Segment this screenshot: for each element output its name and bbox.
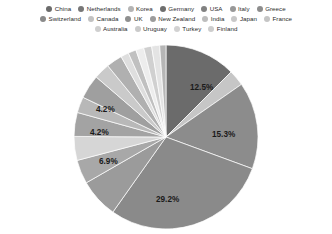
legend-item-france[interactable]: France xyxy=(264,14,292,23)
legend-swatch-icon xyxy=(125,16,131,22)
legend-item-canada[interactable]: Canada xyxy=(88,14,118,23)
legend-swatch-icon xyxy=(160,6,166,12)
legend-item-finland[interactable]: Finland xyxy=(208,24,237,33)
legend-item-label: New Zealand xyxy=(158,14,195,23)
pie-plot-area: 12.5%15.3%29.2%6.9%4.2%4.2% xyxy=(0,40,332,234)
legend-swatch-icon xyxy=(40,16,46,22)
legend-swatch-icon xyxy=(264,16,270,22)
legend-item-india[interactable]: India xyxy=(202,14,224,23)
legend-swatch-icon xyxy=(88,16,94,22)
legend-swatch-icon xyxy=(201,6,207,12)
legend-item-turkey[interactable]: Turkey xyxy=(174,24,201,33)
legend-item-netherlands[interactable]: Netherlands xyxy=(78,4,120,13)
pie-slice-label: 4.2% xyxy=(96,105,115,114)
legend-swatch-icon xyxy=(95,26,101,32)
legend-item-korea[interactable]: Korea xyxy=(128,4,153,13)
legend-item-label: Netherlands xyxy=(87,4,121,13)
legend-item-usa[interactable]: USA xyxy=(201,4,222,13)
pie-slice-label: 4.2% xyxy=(90,128,109,137)
legend-item-label: Turkey xyxy=(182,24,201,33)
legend-item-china[interactable]: China xyxy=(46,4,71,13)
pie-slice-label: 6.9% xyxy=(99,157,118,166)
legend-item-label: Canada xyxy=(97,14,119,23)
legend-item-label: Switzerland xyxy=(48,14,81,23)
legend-swatch-icon xyxy=(78,6,84,12)
pie-slice-label: 15.3% xyxy=(212,130,236,139)
legend-row: AustraliaUruguayTurkeyFinland xyxy=(95,24,238,33)
legend-item-label: Greece xyxy=(265,4,286,13)
legend-item-australia[interactable]: Australia xyxy=(95,24,128,33)
chart-legend: ChinaNetherlandsKoreaGermanyUSAItalyGree… xyxy=(0,4,332,33)
legend-item-germany[interactable]: Germany xyxy=(160,4,194,13)
pie-chart-figure: ChinaNetherlandsKoreaGermanyUSAItalyGree… xyxy=(0,0,332,234)
legend-swatch-icon xyxy=(202,16,208,22)
legend-swatch-icon xyxy=(135,26,141,32)
legend-item-japan[interactable]: Japan xyxy=(231,14,257,23)
legend-swatch-icon xyxy=(46,6,52,12)
legend-item-label: Australia xyxy=(103,24,128,33)
legend-row: SwitzerlandCanadaUKNew ZealandIndiaJapan… xyxy=(40,14,292,23)
legend-item-uruguay[interactable]: Uruguay xyxy=(135,24,167,33)
pie-svg: 12.5%15.3%29.2%6.9%4.2%4.2% xyxy=(66,42,266,232)
legend-item-label: Germany xyxy=(168,4,194,13)
legend-item-label: UK xyxy=(134,14,143,23)
legend-swatch-icon xyxy=(208,26,214,32)
legend-item-label: Uruguay xyxy=(143,24,167,33)
legend-item-label: USA xyxy=(210,4,223,13)
legend-item-label: France xyxy=(272,14,292,23)
legend-item-label: India xyxy=(211,14,225,23)
legend-row: ChinaNetherlandsKoreaGermanyUSAItalyGree… xyxy=(46,4,285,13)
legend-item-switzerland[interactable]: Switzerland xyxy=(40,14,81,23)
legend-swatch-icon xyxy=(150,16,156,22)
legend-item-label: China xyxy=(55,4,71,13)
legend-swatch-icon xyxy=(231,16,237,22)
legend-item-greece[interactable]: Greece xyxy=(257,4,286,13)
pie-slice-label: 29.2% xyxy=(156,195,180,204)
legend-item-label: Korea xyxy=(136,4,153,13)
pie-slice-label: 12.5% xyxy=(190,83,214,92)
legend-item-label: Italy xyxy=(238,4,250,13)
legend-item-uk[interactable]: UK xyxy=(125,14,142,23)
legend-swatch-icon xyxy=(230,6,236,12)
legend-item-italy[interactable]: Italy xyxy=(230,4,250,13)
legend-swatch-icon xyxy=(257,6,263,12)
legend-item-new-zealand[interactable]: New Zealand xyxy=(150,14,196,23)
legend-item-label: Finland xyxy=(217,24,238,33)
legend-swatch-icon xyxy=(128,6,134,12)
legend-item-label: Japan xyxy=(240,14,257,23)
legend-swatch-icon xyxy=(174,26,180,32)
